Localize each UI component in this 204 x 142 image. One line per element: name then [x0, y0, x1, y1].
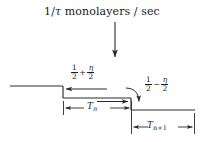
up-operator: +: [78, 69, 88, 77]
down-second-denominator: 2: [161, 85, 168, 93]
eta-half-fraction-down: η 2: [161, 76, 168, 93]
one-half-fraction-down: 1 2: [145, 76, 152, 93]
tn1-subscript: n+1: [153, 124, 167, 132]
step-flow-figure: 1/τ monolayers / sec 1 2 + η 2 1 2 − η 2…: [0, 0, 204, 142]
down-operator: −: [152, 81, 162, 89]
up-first-denominator: 2: [71, 73, 78, 81]
up-second-denominator: 2: [87, 73, 94, 81]
tn-subscript: n: [93, 105, 97, 113]
tn-dimension: [64, 101, 132, 116]
eta-half-fraction-up: η 2: [87, 64, 94, 81]
figure-canvas: [0, 0, 204, 142]
flux-label: 1/τ monolayers / sec: [0, 6, 204, 17]
one-half-fraction-up: 1 2: [71, 64, 78, 81]
terrace-n-label: Tn: [87, 102, 97, 111]
up-step-probability-label: 1 2 + η 2: [71, 64, 94, 81]
flux-prefix: 1/: [44, 5, 55, 18]
down-step-probability-label: 1 2 − η 2: [145, 76, 168, 93]
curved-down-arrow-icon: [126, 88, 139, 102]
down-first-denominator: 2: [145, 85, 152, 93]
terrace-n-plus-1-label: Tn+1: [147, 121, 167, 130]
flux-suffix: monolayers / sec: [61, 5, 160, 18]
